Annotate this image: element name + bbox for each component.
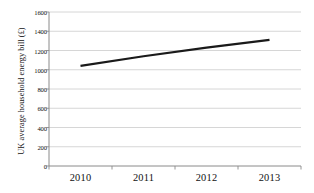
x-tick-label: 2010 bbox=[70, 172, 92, 183]
x-tick-marks bbox=[49, 166, 301, 170]
y-tick-label: 1600 bbox=[34, 9, 47, 16]
y-tick-label: 1000 bbox=[34, 66, 47, 73]
plot-area bbox=[49, 12, 301, 166]
line-chart: UK average household energy bill (£) 020… bbox=[0, 0, 314, 193]
gridlines bbox=[49, 12, 301, 147]
y-tick-label: 1400 bbox=[34, 28, 47, 35]
y-axis-tick-labels: 02004006008001000120014001600 bbox=[20, 12, 47, 166]
y-tick-label: 1200 bbox=[34, 47, 47, 54]
x-tick-label: 2012 bbox=[196, 172, 218, 183]
plot-svg bbox=[49, 12, 301, 166]
data-series-line bbox=[81, 40, 270, 66]
x-axis-tick-labels: 2010201120122013 bbox=[49, 172, 301, 188]
x-tick-label: 2011 bbox=[133, 172, 154, 183]
x-tick-label: 2013 bbox=[259, 172, 281, 183]
